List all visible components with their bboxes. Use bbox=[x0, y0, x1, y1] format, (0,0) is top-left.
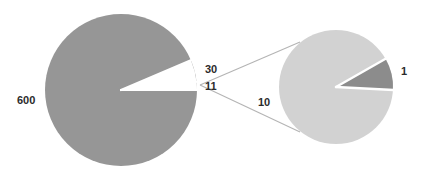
data-label-main-600: 600 bbox=[17, 95, 35, 106]
pie-of-pie-chart: 600 30 11 10 1 bbox=[0, 0, 424, 183]
data-label-main-11: 11 bbox=[205, 81, 217, 92]
secondary-pie bbox=[279, 30, 394, 144]
data-label-secondary-1: 1 bbox=[401, 66, 407, 77]
data-label-secondary-10: 10 bbox=[258, 97, 270, 108]
data-label-main-30: 30 bbox=[205, 64, 217, 75]
primary-pie bbox=[45, 14, 198, 166]
